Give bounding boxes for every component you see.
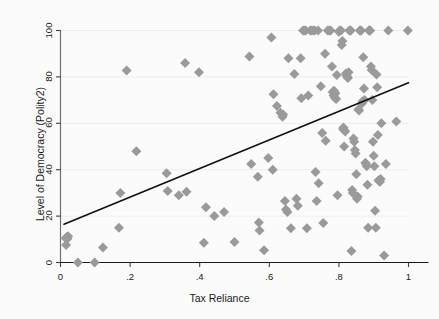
data-point-marker: [372, 82, 382, 92]
data-point-marker: [381, 159, 391, 169]
data-point-marker: [246, 159, 256, 169]
data-point-marker: [90, 258, 100, 268]
data-point-marker: [201, 202, 211, 212]
data-point-marker: [339, 142, 349, 152]
data-point-marker: [254, 218, 264, 228]
data-point-marker: [362, 180, 372, 190]
data-point-marker: [263, 153, 273, 163]
data-point-marker: [230, 237, 240, 247]
data-point-marker: [122, 65, 132, 75]
data-point-marker: [268, 165, 278, 175]
x-tick-label: .2: [115, 271, 145, 282]
data-point-marker: [131, 146, 141, 156]
data-point-marker: [333, 190, 343, 200]
data-point-marker: [318, 218, 328, 228]
data-point-marker: [371, 223, 381, 233]
data-point-marker: [358, 52, 368, 62]
data-point-marker: [293, 201, 303, 211]
data-point-marker: [255, 225, 265, 235]
data-point-marker: [369, 151, 379, 161]
data-point-marker: [253, 172, 263, 182]
data-point-marker: [209, 211, 219, 221]
data-point-marker: [163, 186, 173, 196]
data-point-marker: [259, 245, 269, 255]
data-point-marker: [115, 188, 125, 198]
x-tick-label: .4: [185, 271, 215, 282]
x-axis-title: Tax Reliance: [0, 292, 439, 304]
data-point-marker: [351, 169, 361, 179]
data-point-marker: [316, 81, 326, 91]
data-points: [61, 26, 413, 268]
x-tick-label: .8: [324, 271, 354, 282]
data-point-marker: [391, 116, 401, 126]
data-point-marker: [346, 246, 356, 256]
data-point-marker: [98, 242, 108, 252]
data-point-marker: [180, 58, 190, 68]
scatter-plot-figure: Tax Reliance Level of Democracy (Polity2…: [0, 0, 439, 319]
data-point-marker: [311, 167, 321, 177]
data-point-marker: [199, 238, 209, 248]
data-point-marker: [283, 53, 293, 63]
data-point-marker: [280, 196, 290, 206]
y-tick-label: 20: [42, 203, 53, 229]
data-point-marker: [346, 26, 356, 36]
data-point-marker: [266, 32, 276, 42]
gridlines: [61, 31, 409, 217]
data-point-marker: [289, 69, 299, 79]
y-tick-label: 0: [42, 249, 53, 275]
data-point-marker: [314, 178, 324, 188]
data-point-marker: [312, 196, 322, 206]
data-point-marker: [302, 223, 312, 233]
x-tick-label: .6: [254, 271, 284, 282]
data-point-marker: [327, 61, 337, 71]
data-point-marker: [332, 70, 342, 80]
data-point-marker: [114, 223, 124, 233]
data-point-marker: [370, 206, 380, 216]
y-tick-label: 100: [42, 17, 53, 43]
data-point-marker: [320, 49, 330, 59]
data-point-marker: [403, 26, 413, 36]
data-point-marker: [194, 67, 204, 77]
y-tick-label: 40: [42, 156, 53, 182]
x-tick-label: 1: [394, 271, 424, 282]
data-point-marker: [376, 118, 386, 128]
data-point-marker: [244, 51, 254, 61]
y-tick-label: 60: [42, 110, 53, 136]
data-point-marker: [286, 223, 296, 233]
data-point-marker: [383, 26, 393, 36]
data-point-marker: [219, 207, 229, 217]
data-point-marker: [73, 258, 83, 268]
data-point-marker: [359, 84, 369, 94]
data-point-marker: [268, 89, 278, 99]
data-point-marker: [296, 53, 306, 63]
data-point-marker: [379, 251, 389, 261]
y-tick-label: 80: [42, 63, 53, 89]
data-point-marker: [365, 26, 375, 36]
